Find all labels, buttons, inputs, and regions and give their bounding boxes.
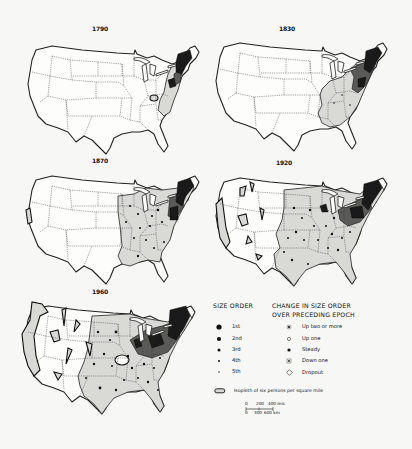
dot-in-square-icon bbox=[284, 358, 294, 364]
scale-mi-200: 200 bbox=[256, 402, 264, 406]
scale-mi-0: 0 bbox=[245, 402, 248, 406]
tiny-filled-dot-icon bbox=[214, 358, 224, 364]
legend-change-row-1: Up two or more bbox=[284, 324, 342, 330]
legend-isopleth-row: Isopleth of six persons per square mile bbox=[214, 388, 323, 395]
legend-change-row-3: Steady bbox=[284, 347, 320, 353]
map-title-1830: 1830 bbox=[279, 25, 295, 32]
legend-size-row-5: 5th bbox=[214, 369, 241, 375]
filled-dot-icon bbox=[284, 347, 294, 353]
open-circle-icon bbox=[284, 336, 294, 342]
legend-change-row-5: Dropout bbox=[284, 369, 323, 376]
open-diamond-icon bbox=[284, 369, 294, 376]
minimal-dot-icon bbox=[214, 369, 224, 375]
legend-change-title-line1: CHANGE IN SIZE ORDER bbox=[272, 303, 351, 309]
scale-bar: 0 200 400 mis 0 300 600 km bbox=[245, 402, 305, 420]
map-title-1790: 1790 bbox=[92, 25, 108, 32]
isopleth-outline-icon bbox=[214, 388, 226, 395]
legend-change-label: Up one bbox=[302, 336, 320, 341]
legend-size-row-4: 4th bbox=[214, 358, 241, 364]
legend-size-row-1: 1st bbox=[214, 324, 240, 330]
scale-mi-400: 400 mis bbox=[268, 402, 285, 406]
legend-size-order-title: SIZE ORDER bbox=[213, 303, 253, 309]
scale-km-0: 0 bbox=[245, 411, 248, 415]
us-map-1870 bbox=[22, 166, 202, 286]
us-map-1920 bbox=[210, 168, 390, 288]
map-title-1870: 1870 bbox=[92, 157, 108, 164]
us-map-1790 bbox=[22, 36, 202, 156]
legend-change-row-4: Down one bbox=[284, 358, 328, 364]
legend-change-label: Dropout bbox=[302, 370, 323, 375]
legend-change-row-2: Up one bbox=[284, 336, 320, 342]
medium-filled-dot-icon bbox=[214, 336, 224, 342]
legend-change-label: Up two or more bbox=[302, 324, 342, 329]
legend-size-label: 5th bbox=[232, 369, 241, 374]
small-filled-dot-icon bbox=[214, 347, 224, 353]
legend-size-row-3: 3rd bbox=[214, 347, 241, 353]
large-filled-dot-icon bbox=[214, 324, 224, 330]
scale-km-300: 300 bbox=[254, 411, 262, 415]
legend-size-label: 4th bbox=[232, 358, 241, 363]
legend-change-label: Down one bbox=[302, 358, 328, 363]
dot-with-ring-icon bbox=[284, 324, 294, 330]
us-map-1830 bbox=[210, 33, 390, 153]
legend-isopleth-label: Isopleth of six persons per square mile bbox=[234, 389, 323, 394]
legend-change-title-line2: OVER PRECEDING EPOCH bbox=[272, 312, 355, 318]
legend-size-row-2: 2nd bbox=[214, 336, 242, 342]
map-title-1960: 1960 bbox=[92, 288, 108, 295]
legend-size-label: 1st bbox=[232, 324, 240, 329]
legend-size-label: 2nd bbox=[232, 336, 242, 341]
scale-km-600: 600 km bbox=[264, 411, 280, 415]
legend-size-label: 3rd bbox=[232, 347, 241, 352]
map-title-1920: 1920 bbox=[276, 159, 292, 166]
us-map-1960 bbox=[18, 296, 198, 416]
legend-change-label: Steady bbox=[302, 347, 320, 352]
